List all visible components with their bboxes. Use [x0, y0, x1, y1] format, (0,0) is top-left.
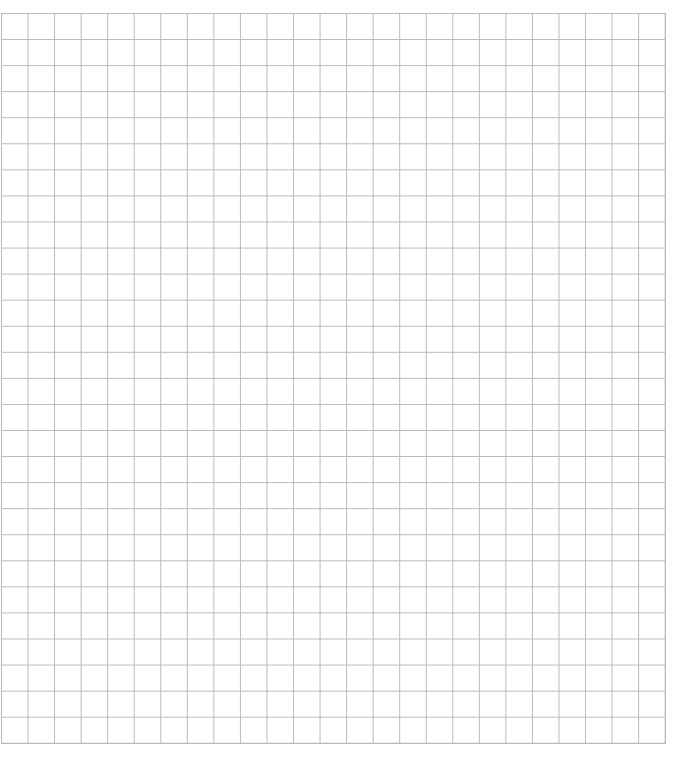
grid-bottom-border	[1, 743, 666, 744]
graph-paper-grid	[1, 13, 665, 743]
page-canvas	[0, 0, 681, 763]
grid-right-border	[665, 13, 666, 744]
